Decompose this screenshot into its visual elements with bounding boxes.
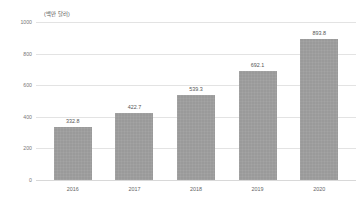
y-axis-tick-label: 600 [2,82,32,88]
bar-value-label: 893.8 [289,30,349,36]
y-axis-tick-label: 1000 [2,19,32,25]
x-axis-tick-label: 2016 [54,182,92,198]
bars-layer: 332.8422.7539.3692.1893.8 [36,22,356,180]
bar[interactable] [300,39,338,180]
axis-baseline [36,180,356,181]
bar[interactable] [177,95,215,180]
bar-group: 539.3 [177,22,215,180]
x-axis-tick-label: 2017 [115,182,153,198]
bar-value-label: 692.1 [228,62,288,68]
x-axis-tick-label: 2019 [239,182,277,198]
bar[interactable] [115,113,153,180]
y-axis-unit-label: (백만 달러) [44,10,70,18]
y-axis-tick-label: 400 [2,114,32,120]
x-axis-tick-label: 2020 [300,182,338,198]
bar[interactable] [239,71,277,180]
bar-value-label: 422.7 [104,104,164,110]
y-axis: 10008006004002000 [0,22,32,180]
bar[interactable] [54,127,92,180]
x-axis-tick-label: 2018 [177,182,215,198]
bar-value-label: 332.8 [43,118,103,124]
y-axis-tick-label: 0 [2,177,32,183]
y-axis-tick-label: 200 [2,145,32,151]
bar-value-label: 539.3 [166,86,226,92]
bar-chart: (백만 달러) 10008006004002000 332.8422.7539.… [0,0,363,210]
bar-group: 332.8 [54,22,92,180]
bar-group: 692.1 [239,22,277,180]
bar-group: 893.8 [300,22,338,180]
bar-group: 422.7 [115,22,153,180]
x-axis: 20162017201820192020 [36,182,356,198]
y-axis-tick-label: 800 [2,51,32,57]
